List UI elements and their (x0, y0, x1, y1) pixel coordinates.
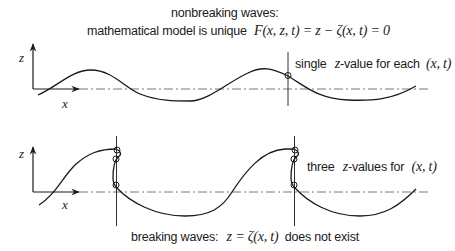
bottom-z-label: z (19, 146, 24, 162)
top-annotation-args: (x, t) (426, 56, 451, 71)
bottom-annotation-prefix: three (307, 160, 335, 174)
top-panel (33, 44, 428, 106)
bottom-x-label: x (62, 197, 68, 213)
wave-diagram (0, 0, 455, 251)
top-wave-profile (38, 69, 416, 101)
footer-suffix: does not exist (285, 230, 359, 244)
bottom-annotation-args: (x, t) (411, 159, 436, 174)
bottom-panel (33, 136, 428, 226)
top-annotation-prefix: single (295, 57, 326, 71)
footer-breaking-waves: breaking waves: z = ζ(x, t) does not exi… (131, 229, 359, 245)
bottom-annotation: three z-values for (x, t) (307, 159, 437, 175)
bottom-annotation-mid: -values for (348, 160, 404, 174)
bottom-wave-trough-1 (117, 149, 294, 216)
footer-prefix: breaking waves: (131, 230, 218, 244)
bottom-wave-crest-1 (39, 149, 116, 205)
footer-formula: z = ζ(x, t) (227, 229, 279, 244)
top-z-label: z (19, 50, 24, 66)
top-annotation-mid: -value for each (340, 57, 420, 71)
top-x-label: x (62, 96, 68, 112)
top-annotation: single z-value for each (x, t) (295, 56, 451, 72)
